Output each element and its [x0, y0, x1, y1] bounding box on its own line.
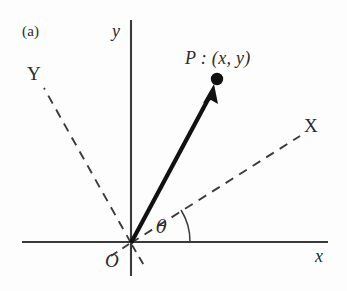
y-axis-label: y — [112, 22, 120, 40]
X-axis-label: X — [304, 116, 318, 135]
figure-canvas — [0, 0, 347, 291]
rotated-axes-group — [44, 88, 300, 267]
point-p-label: P : (x, y) — [185, 49, 251, 67]
Y-axis-label: Y — [27, 64, 41, 83]
position-vector-group — [131, 73, 223, 243]
x-axis-label: x — [315, 247, 323, 265]
point-p-marker — [211, 73, 223, 85]
Y-axis-dashed-line — [44, 88, 131, 243]
angle-arc-group — [181, 210, 190, 242]
coordinate-rotation-figure: (a) y x X Y O P : (x, y) θ — [0, 0, 347, 291]
position-vector-shaft — [131, 92, 212, 243]
theta-arc — [181, 210, 190, 242]
Y-negative-stub-dashed — [132, 245, 145, 267]
position-vector-arrowhead — [203, 84, 218, 104]
theta-label: θ — [156, 218, 167, 236]
origin-label: O — [105, 251, 119, 270]
panel-label: (a) — [22, 24, 39, 39]
